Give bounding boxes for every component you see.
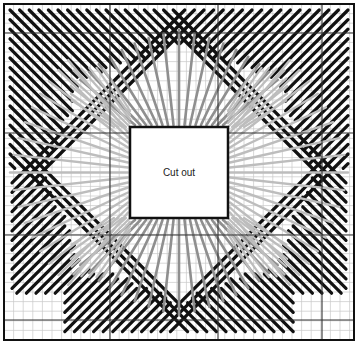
cutout-label: Cut out	[130, 127, 228, 218]
